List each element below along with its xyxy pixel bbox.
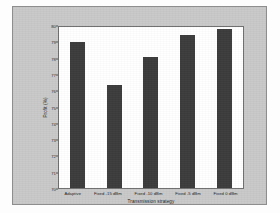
x-tick-label-fixed-5-dbm: Fixed -5 dBm [175, 191, 201, 196]
x-tick-label-fixed-15-dbm: Fixed -15 dBm [94, 191, 122, 196]
x-axis-tick-labels: AdaptiveFixed -15 dBmFixed -10 dBmFixed … [58, 191, 244, 196]
bar-fixed-5-dbm [180, 35, 195, 188]
y-tick-mark-79 [56, 42, 58, 43]
y-tick-mark-75 [56, 107, 58, 108]
x-tick-label-fixed-10-dbm: Fixed -10 dBm [135, 191, 163, 196]
plot-area [58, 26, 244, 189]
y-tick-mark-73 [56, 140, 58, 141]
x-axis-title: Transmission strategy [58, 199, 244, 204]
x-tick-label-fixed-0-dbm: Fixed 0 dBm [214, 191, 238, 196]
bar-fixed-15-dbm [107, 85, 122, 188]
figure-root: 8079787776757473727170 Profit (%) Adapti… [0, 0, 280, 213]
figure-panel: 8079787776757473727170 Profit (%) Adapti… [12, 6, 267, 205]
y-axis-title: Profit (%) [40, 26, 50, 189]
y-tick-mark-78 [56, 58, 58, 59]
y-tick-mark-70 [56, 189, 58, 190]
bar-adaptive [70, 42, 85, 189]
bar-fixed-0-dbm [217, 29, 232, 188]
y-tick-mark-80 [56, 26, 58, 27]
y-tick-mark-77 [56, 74, 58, 75]
y-tick-mark-72 [56, 156, 58, 157]
y-tick-mark-76 [56, 91, 58, 92]
x-tick-label-adaptive: Adaptive [64, 191, 81, 196]
bar-series [59, 27, 243, 188]
y-tick-mark-71 [56, 172, 58, 173]
y-tick-mark-74 [56, 123, 58, 124]
bar-fixed-10-dbm [143, 57, 158, 188]
